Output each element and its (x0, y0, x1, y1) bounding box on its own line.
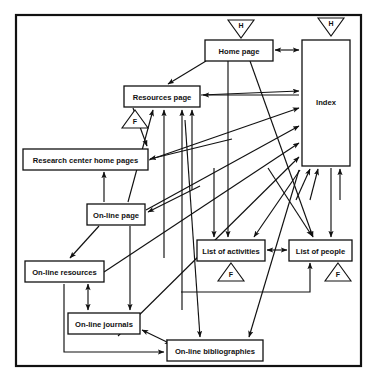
diagram-canvas: Home page Index Resources page Research … (0, 0, 373, 377)
node-research-center-home-pages[interactable]: Research center home pages (23, 149, 148, 170)
node-home-page[interactable]: Home page (205, 40, 273, 61)
node-online-resources[interactable]: On-line resources (25, 261, 104, 282)
node-list-of-people-label: List of people (296, 247, 345, 256)
node-index[interactable]: Index (302, 40, 350, 166)
node-online-resources-label: On-line resources (32, 268, 97, 277)
edge-resources-index (201, 91, 299, 95)
node-online-page-label: On-line page (93, 211, 139, 220)
node-resources-page-label: Resources page (133, 93, 192, 102)
edge-layer (64, 50, 340, 352)
marker-f-resources: F (122, 110, 148, 128)
marker-f-people-label: F (336, 271, 341, 278)
node-list-of-activities-label: List of activities (202, 247, 259, 256)
node-home-page-label: Home page (219, 47, 260, 56)
edge-onbib-people (181, 263, 310, 292)
node-online-journals-label: On-line journals (75, 320, 133, 329)
marker-f-people: F (325, 263, 351, 281)
marker-f-activities-label: F (229, 271, 234, 278)
marker-h-index-label: H (328, 20, 333, 27)
marker-h-index: H (318, 18, 344, 36)
node-research-center-home-pages-label: Research center home pages (33, 156, 139, 165)
edge-diag-activities (254, 170, 300, 237)
marker-f-resources-label: F (133, 118, 138, 125)
edge-online-onres (70, 226, 99, 258)
marker-h-home: H (228, 20, 254, 38)
node-layer: Home page Index Resources page Research … (23, 40, 352, 361)
edge-bottom-index-b (310, 169, 318, 200)
node-list-of-people[interactable]: List of people (289, 240, 352, 261)
edge-online-index (146, 126, 299, 210)
node-list-of-activities[interactable]: List of activities (197, 240, 265, 261)
edge-home-resources (168, 61, 206, 84)
node-online-journals[interactable]: On-line journals (68, 313, 140, 334)
node-online-bibliographies-label: On-line bibliographies (175, 347, 255, 356)
node-online-bibliographies[interactable]: On-line bibliographies (167, 340, 263, 361)
marker-f-activities: F (218, 263, 244, 281)
node-resources-page[interactable]: Resources page (124, 86, 200, 107)
node-index-label: Index (316, 98, 337, 107)
edge-index-research (150, 139, 232, 159)
node-online-page[interactable]: On-line page (87, 204, 145, 225)
diagram-svg: Home page Index Resources page Research … (0, 0, 373, 377)
marker-h-home-label: H (238, 22, 243, 29)
